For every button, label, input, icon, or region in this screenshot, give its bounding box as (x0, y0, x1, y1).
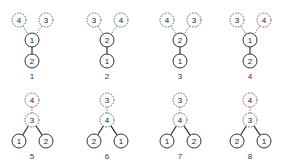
node-label: 3 (105, 96, 110, 105)
edge-3-2 (241, 126, 247, 135)
diagram-caption: 7 (178, 152, 183, 161)
node-label: 4 (119, 16, 124, 25)
node-4: 4 (160, 13, 174, 27)
node-3: 3 (39, 13, 53, 27)
node-label: 2 (248, 57, 253, 66)
node-4: 4 (173, 113, 187, 127)
node-1: 1 (12, 134, 26, 148)
diagram-caption: 5 (30, 152, 35, 161)
node-3: 3 (173, 93, 187, 107)
node-3: 3 (187, 13, 201, 27)
node-label: 2 (44, 137, 49, 146)
node-label: 4 (248, 96, 253, 105)
diagram-caption: 3 (178, 72, 183, 81)
tree-diagram-4: 34124 (230, 13, 271, 81)
tree-diagram-2: 34212 (87, 13, 128, 81)
node-1: 1 (25, 33, 39, 47)
diagram-caption: 8 (248, 152, 253, 161)
node-3: 3 (230, 13, 244, 27)
tree-diagram-7: 34127 (160, 93, 201, 161)
edge-3-1 (241, 26, 246, 34)
node-4: 4 (257, 13, 271, 27)
node-2: 2 (100, 33, 114, 47)
node-label: 1 (165, 137, 170, 146)
node-1: 1 (257, 134, 271, 148)
edge-3-2 (36, 126, 42, 135)
node-label: 1 (119, 137, 124, 146)
node-3: 3 (25, 113, 39, 127)
node-2: 2 (87, 134, 101, 148)
node-4: 4 (12, 13, 26, 27)
node-label: 4 (17, 16, 22, 25)
node-4: 4 (25, 93, 39, 107)
node-label: 2 (235, 137, 240, 146)
node-1: 1 (160, 134, 174, 148)
node-label: 3 (178, 96, 183, 105)
node-label: 4 (262, 16, 267, 25)
node-label: 4 (30, 96, 35, 105)
node-label: 1 (17, 137, 22, 146)
node-2: 2 (187, 134, 201, 148)
edge-4-2 (171, 26, 176, 34)
edge-4-1 (254, 26, 260, 35)
node-label: 1 (105, 57, 110, 66)
edge-4-1 (23, 26, 28, 34)
node-label: 1 (30, 36, 35, 45)
node-label: 3 (235, 16, 240, 25)
edge-4-2 (98, 126, 104, 135)
node-label: 3 (44, 16, 49, 25)
diagram-caption: 4 (248, 72, 253, 81)
edge-4-2 (184, 126, 190, 135)
tree-diagram-6: 34216 (87, 93, 128, 161)
node-3: 3 (243, 113, 257, 127)
node-4: 4 (243, 93, 257, 107)
node-label: 2 (178, 36, 183, 45)
tree-diagram-3: 43213 (160, 13, 201, 81)
node-label: 4 (105, 116, 110, 125)
node-label: 1 (178, 57, 183, 66)
node-label: 3 (30, 116, 35, 125)
node-2: 2 (25, 54, 39, 68)
node-label: 2 (192, 137, 197, 146)
edge-4-1 (171, 126, 177, 135)
node-3: 3 (100, 93, 114, 107)
diagram-caption: 6 (105, 152, 110, 161)
tree-diagram-5: 43125 (12, 93, 53, 161)
edge-4-2 (111, 26, 117, 35)
edge-3-1 (23, 126, 29, 135)
node-label: 3 (92, 16, 97, 25)
node-3: 3 (87, 13, 101, 27)
diagram-caption: 2 (105, 72, 110, 81)
node-label: 1 (248, 36, 253, 45)
node-2: 2 (173, 33, 187, 47)
tree-configurations-figure: 4312134212432133412443125342163412743218 (0, 0, 287, 165)
edge-3-2 (98, 26, 103, 34)
node-label: 3 (192, 16, 197, 25)
edge-3-1 (254, 126, 260, 135)
tree-diagram-1: 43121 (12, 13, 53, 81)
edge-3-1 (36, 26, 42, 35)
node-label: 1 (262, 137, 267, 146)
node-1: 1 (114, 134, 128, 148)
edge-4-1 (111, 126, 117, 135)
node-1: 1 (100, 54, 114, 68)
edge-3-2 (184, 26, 190, 35)
node-label: 4 (178, 116, 183, 125)
node-label: 2 (92, 137, 97, 146)
node-2: 2 (230, 134, 244, 148)
node-2: 2 (243, 54, 257, 68)
node-2: 2 (39, 134, 53, 148)
node-1: 1 (243, 33, 257, 47)
node-label: 3 (248, 116, 253, 125)
node-1: 1 (173, 54, 187, 68)
node-4: 4 (100, 113, 114, 127)
node-label: 4 (165, 16, 170, 25)
node-label: 2 (105, 36, 110, 45)
node-4: 4 (114, 13, 128, 27)
diagram-caption: 1 (30, 72, 35, 81)
tree-diagram-8: 43218 (230, 93, 271, 161)
node-label: 2 (30, 57, 35, 66)
